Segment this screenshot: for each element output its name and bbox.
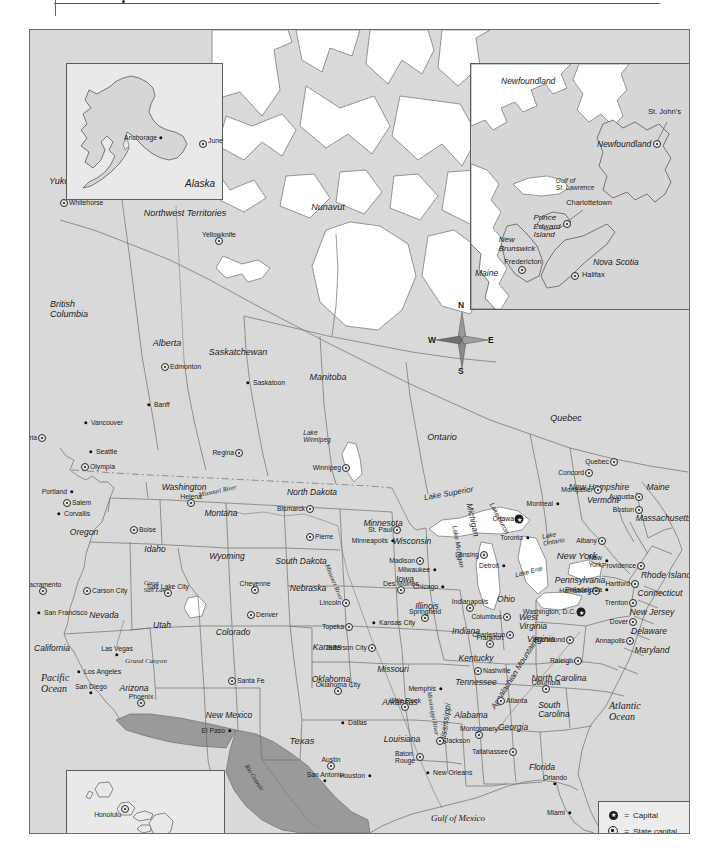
marker-yellowknife xyxy=(215,237,223,245)
state-label-tennessee: Tennessee xyxy=(455,678,496,687)
city-label-dover: Dover xyxy=(610,618,628,625)
marker-winnipeg xyxy=(342,464,350,472)
state-label-oregon: Oregon xyxy=(70,528,98,537)
city-label-las-vegas: Las Vegas xyxy=(101,645,133,652)
marker-denver xyxy=(247,611,255,619)
state-label-north-dakota: North Dakota xyxy=(287,488,337,497)
marker-charleston xyxy=(506,631,514,639)
city-label-el-paso: El Paso xyxy=(202,727,225,734)
inset-canada-maritimes[interactable]: Newfoundland Newfoundland Gulf of St. La… xyxy=(470,63,690,310)
city-label-boston: Boston xyxy=(613,506,634,513)
city-label-columbus: Columbus xyxy=(471,613,502,620)
city-label-lincoln: Lincoln xyxy=(319,599,341,606)
inset-hawaii[interactable]: Honolulu Hawaii xyxy=(66,770,225,834)
marker-lansing xyxy=(480,551,488,559)
marker-little-rock xyxy=(401,703,409,711)
state-label-georgia: Georgia xyxy=(498,723,528,732)
city-label-san-diego: San Diego xyxy=(75,683,107,690)
marker-lincoln xyxy=(342,599,350,607)
marker-hartford xyxy=(631,580,639,588)
city-label-bismarck: Bismarck xyxy=(277,505,305,512)
city-label-providence: Providence xyxy=(602,562,636,569)
city-label-banff: Banff xyxy=(154,401,170,408)
province-label-nunavut: Nunavut xyxy=(311,203,345,212)
inset-label-newfoundland-island: Newfoundland xyxy=(597,140,651,149)
marker-fredericton xyxy=(518,266,526,274)
city-label-san-francisco: San Francisco xyxy=(44,609,87,616)
city-label-annapolis: Annapolis xyxy=(595,637,625,644)
marker-concord xyxy=(585,469,593,477)
state-label-nebraska: Nebraska xyxy=(290,584,326,593)
city-label-santa-fe: Santa Fe xyxy=(237,677,265,684)
state-label-ohio: Ohio xyxy=(497,595,515,604)
city-label-anchorage: Anchorage xyxy=(124,134,157,141)
city-label-edmonton: Edmonton xyxy=(170,363,201,370)
state-label-arizona: Arizona xyxy=(120,684,149,693)
marker-washington-d-c xyxy=(577,608,586,617)
state-label-new-mexico: New Mexico xyxy=(206,711,252,720)
marker-des-moines xyxy=(397,586,405,594)
province-label-nwt: Northwest Territories xyxy=(144,209,227,218)
inset-label-gulf-st-lawrence: Gulf of St. Lawrence xyxy=(556,177,594,191)
map-legend: = Capital = State capital = Major city xyxy=(598,801,690,834)
marker-madison xyxy=(416,557,424,565)
marker-st-paul xyxy=(393,526,401,534)
marker-jackson xyxy=(436,737,444,745)
marker-santa-fe xyxy=(228,677,236,685)
marker-olympia xyxy=(81,463,89,471)
city-label-jefferson-city: Jefferson City xyxy=(326,644,367,651)
province-label-saskatchewan: Saskatchewan xyxy=(209,348,268,357)
city-label-san-antonio: San Antonio xyxy=(307,771,344,778)
inset-label-prince-edward-island: Prince Edward Island xyxy=(533,214,560,240)
city-label-augusta: Augusta xyxy=(609,493,634,500)
city-label-trenton: Trenton xyxy=(605,599,628,606)
inset-label-maine: Maine xyxy=(475,269,498,278)
city-label-cheyenne: Cheyenne xyxy=(240,580,271,587)
marker-boise xyxy=(130,526,138,534)
city-label-hartford: Hartford xyxy=(605,580,630,587)
marker-regina xyxy=(235,449,243,457)
marker-charlottetown xyxy=(563,220,571,228)
city-label-montpelier: Montpelier xyxy=(561,486,593,493)
legend-label-capital: Capital xyxy=(633,811,658,820)
city-label-victoria: Victoria xyxy=(29,434,37,441)
compass-rose: N E S W xyxy=(428,300,496,380)
state-capital-icon xyxy=(606,826,620,834)
state-label-new-jersey: New Jersey xyxy=(630,608,674,617)
state-label-south-dakota: South Dakota xyxy=(275,557,327,566)
city-label-sacramento: Sacramento xyxy=(29,581,61,588)
marker-phoenix xyxy=(137,699,145,707)
city-label-philadelphia: Philadelphia xyxy=(565,586,602,593)
inset-label-nova-scotia: Nova Scotia xyxy=(593,258,639,267)
city-label-dallas: Dallas xyxy=(348,719,367,726)
marker-dover xyxy=(629,618,637,626)
state-label-california: California xyxy=(34,644,70,653)
inset-alaska[interactable]: Anchorage Juneau Alaska xyxy=(66,63,223,200)
feature-label-grand-canyon: Grand Canyon xyxy=(125,658,167,665)
province-label-quebec: Quebec xyxy=(550,414,582,423)
map-canvas[interactable]: .wfill{fill:#ffffff;stroke:#6e6e6e;strok… xyxy=(29,29,690,834)
city-label-tallahassee: Tallahassee xyxy=(472,748,508,755)
marker-topeka xyxy=(345,623,353,631)
marker-indianapolis xyxy=(466,604,474,612)
state-label-louisiana: Louisiana xyxy=(384,735,420,744)
city-label-pierre: Pierre xyxy=(315,533,333,540)
province-label-manitoba: Manitoba xyxy=(309,373,346,382)
marker-whitehorse xyxy=(60,199,68,207)
top-tick-mark xyxy=(55,0,56,16)
state-label-pennsylvania: Pennsylvania xyxy=(555,576,606,585)
city-label-springfield: Springfield xyxy=(409,608,441,615)
state-label-delaware: Delaware xyxy=(631,627,667,636)
marker-austin xyxy=(327,762,335,770)
state-label-west-virginia: West Virginia xyxy=(519,613,547,631)
city-label-denver: Denver xyxy=(256,611,278,618)
marker-columbus xyxy=(503,613,511,621)
city-label-salem: Salem xyxy=(72,499,91,506)
state-label-maine: Maine xyxy=(646,483,669,492)
city-label-yellowknife: Yellowknife xyxy=(202,231,236,238)
state-label-wisconsin: Wisconsin xyxy=(393,537,432,546)
province-label-ontario: Ontario xyxy=(427,433,457,442)
marker-st-johns xyxy=(653,140,661,148)
marker-augusta xyxy=(635,493,643,501)
marker-tallahassee xyxy=(509,748,517,756)
